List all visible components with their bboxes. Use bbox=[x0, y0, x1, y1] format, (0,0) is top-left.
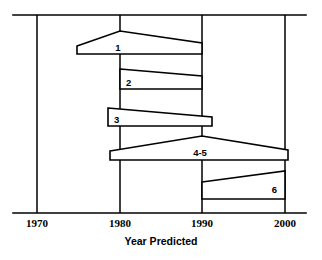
band-label-6: 6 bbox=[272, 184, 277, 195]
band-label-3: 3 bbox=[114, 114, 119, 125]
x-axis-title: Year Predicted bbox=[125, 235, 198, 247]
x-tick-label-1980: 1980 bbox=[109, 217, 132, 229]
x-tick-label-1970: 1970 bbox=[26, 217, 49, 229]
x-tick-label-1990: 1990 bbox=[191, 217, 214, 229]
band-label-2: 2 bbox=[126, 77, 131, 88]
band-label-4-5: 4-5 bbox=[193, 147, 207, 158]
year-predicted-band-chart: 1 2 3 4-5 6 1970 1980 1990 2000 Year Pre… bbox=[0, 0, 322, 260]
chart-container: 1 2 3 4-5 6 1970 1980 1990 2000 Year Pre… bbox=[0, 0, 322, 260]
band-label-1: 1 bbox=[115, 42, 121, 53]
x-tick-label-2000: 2000 bbox=[274, 217, 297, 229]
band-shape-3 bbox=[108, 108, 212, 126]
band-shape-1 bbox=[77, 31, 202, 54]
band-shape-2 bbox=[120, 69, 202, 89]
